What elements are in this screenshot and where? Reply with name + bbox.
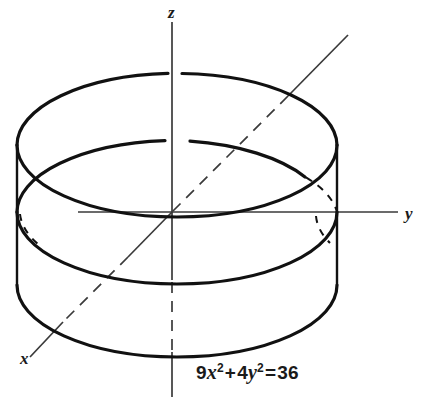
equation-coefficient-y: 4 [237,362,248,383]
equation-exponent-y: 2 [257,361,264,375]
x-axis-label: x [19,349,29,368]
xy-trace-front [17,212,337,284]
equation-right-hand-side: 36 [277,362,299,383]
coordinate-diagram-svg: z y x [0,0,430,397]
equation-variable-x: x [207,361,217,383]
top-rim-back-right [182,74,337,146]
xy-trace-back-right-hidden [306,177,337,212]
y-axis-label: y [403,204,413,223]
equation-caption: 9x2+4y2=36 [196,361,299,384]
equation-coefficient-x: 9 [196,362,207,383]
equation-exponent-x: 2 [217,361,224,375]
equation-plus-operator: + [224,362,237,383]
top-rim-back-left [17,73,168,145]
x-axis-hidden-upper-dashed [172,96,288,212]
bottom-rim-front [17,285,337,357]
x-axis-positive-front [128,212,172,257]
x-axis-negative-outer [288,35,348,96]
figure-container: z y x 9x2+4y2=36 [0,0,430,397]
xy-trace-back-left [17,141,165,212]
xy-trace-back-right [190,141,305,177]
equation-equals-operator: = [264,362,277,383]
equation-variable-y: y [248,361,257,383]
xy-trace-hidden-stub-right [316,216,330,243]
z-axis-label: z [167,3,175,22]
